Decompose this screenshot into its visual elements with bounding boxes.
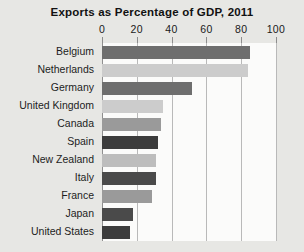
bar-row (102, 154, 276, 167)
x-tick-mark-100 (276, 37, 277, 43)
bar-row (102, 82, 276, 95)
category-label-united-kingdom: United Kingdom (0, 99, 98, 111)
x-axis-tick-labels: 020406080100 (0, 23, 304, 37)
bars-layer (102, 43, 304, 241)
category-label-netherlands: Netherlands (0, 63, 98, 75)
category-label-france: France (0, 189, 98, 201)
category-labels: BelgiumNetherlandsGermanyUnited KingdomC… (0, 43, 98, 241)
chart-title: Exports as Percentage of GDP, 2011 (0, 6, 304, 18)
bar-new-zealand (102, 154, 156, 167)
bar-france (102, 190, 152, 203)
x-tick-mark-20 (137, 37, 138, 43)
bar-row (102, 172, 276, 185)
bar-italy (102, 172, 156, 185)
x-tick-label-100: 100 (267, 23, 286, 35)
bar-netherlands (102, 64, 248, 77)
x-tick-label-40: 40 (165, 23, 177, 35)
bar-row (102, 190, 276, 203)
category-label-japan: Japan (0, 207, 98, 219)
x-tick-label-20: 20 (131, 23, 143, 35)
chart-figure: Exports as Percentage of GDP, 2011 02040… (0, 0, 304, 252)
category-label-new-zealand: New Zealand (0, 153, 98, 165)
bar-canada (102, 118, 161, 131)
bar-united-kingdom (102, 100, 163, 113)
bar-united-states (102, 226, 130, 239)
x-tick-mark-80 (241, 37, 242, 43)
category-label-united-states: United States (0, 225, 98, 237)
bar-row (102, 208, 276, 221)
bar-row (102, 118, 276, 131)
x-tick-mark-40 (172, 37, 173, 43)
x-tick-mark-60 (206, 37, 207, 43)
x-tick-label-80: 80 (235, 23, 247, 35)
bar-germany (102, 82, 192, 95)
x-tick-label-0: 0 (99, 23, 105, 35)
category-label-spain: Spain (0, 135, 98, 147)
bar-row (102, 136, 276, 149)
bar-row (102, 46, 276, 59)
category-label-canada: Canada (0, 117, 98, 129)
category-label-belgium: Belgium (0, 45, 98, 57)
bar-row (102, 100, 276, 113)
bar-row (102, 226, 276, 239)
x-tick-label-60: 60 (200, 23, 212, 35)
bar-spain (102, 136, 158, 149)
category-label-germany: Germany (0, 81, 98, 93)
x-tick-mark-0 (102, 37, 103, 43)
bar-row (102, 64, 276, 77)
category-label-italy: Italy (0, 171, 98, 183)
bar-belgium (102, 46, 250, 59)
bar-japan (102, 208, 133, 221)
